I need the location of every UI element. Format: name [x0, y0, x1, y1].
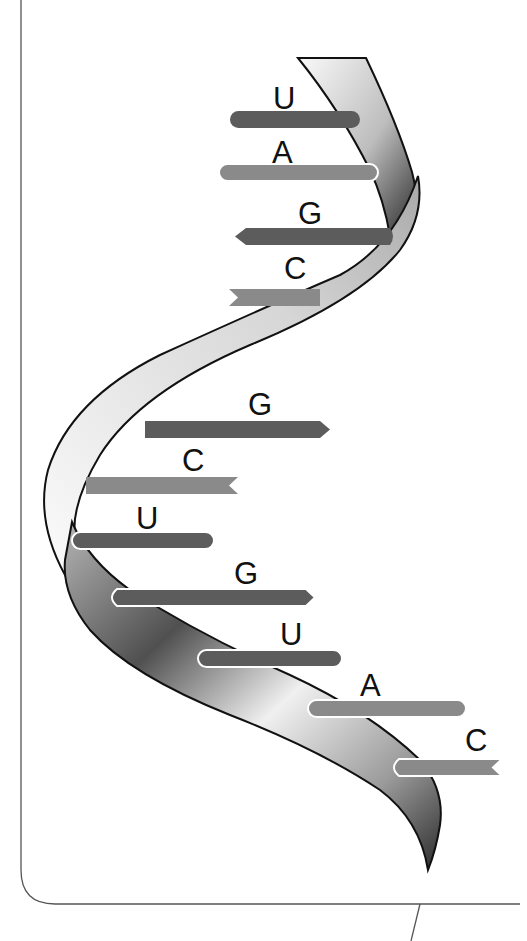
base-4: C: [229, 251, 320, 306]
base-8: G: [112, 556, 315, 606]
base-bar: [198, 650, 342, 667]
base-bar: [235, 228, 393, 245]
base-label: A: [360, 668, 381, 703]
base-label: C: [465, 723, 487, 758]
base-label: C: [182, 443, 204, 478]
base-label: U: [136, 501, 158, 536]
base-bar: [72, 532, 214, 549]
base-bar: [86, 477, 238, 494]
base-6: C: [86, 443, 238, 494]
base-bar: [229, 289, 320, 306]
rna-diagram: U A G C G C U G U A C: [0, 0, 527, 941]
base-5: G: [145, 387, 330, 438]
base-3: G: [235, 196, 393, 245]
base-bar: [394, 759, 502, 776]
base-label: G: [234, 556, 258, 591]
base-label: C: [284, 251, 306, 286]
base-bar: [145, 421, 330, 438]
base-bar: [308, 700, 466, 717]
base-bar: [219, 164, 378, 181]
base-label: G: [248, 387, 272, 422]
base-label: U: [273, 81, 295, 116]
base-label: G: [298, 196, 322, 231]
base-label: U: [280, 617, 302, 652]
base-11: C: [394, 723, 502, 776]
base-10: A: [308, 668, 466, 717]
base-bar: [230, 111, 360, 128]
base-bar: [112, 589, 315, 606]
base-7: U: [72, 501, 214, 549]
pointer-line: [411, 904, 420, 941]
